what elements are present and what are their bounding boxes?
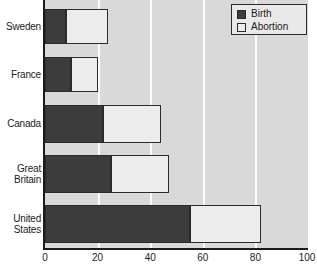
x-tick-label-60: 60 [197, 252, 208, 263]
legend-swatch-birth [237, 10, 246, 19]
x-tick-label-80: 80 [250, 252, 261, 263]
category-label-line: States [0, 224, 41, 235]
category-label-canada: Canada [0, 118, 41, 129]
bar-segment-birth[interactable] [45, 57, 71, 92]
x-tick-label-20: 20 [92, 252, 103, 263]
bar-row[interactable] [45, 155, 308, 193]
bar-row[interactable] [45, 205, 308, 243]
stacked-bar-chart: Sweden France Canada Great Britain Unite… [0, 0, 317, 266]
legend: Birth Abortion [231, 4, 307, 35]
category-label-line: Sweden [0, 21, 41, 32]
bar-row[interactable] [45, 105, 308, 143]
legend-item-birth[interactable]: Birth [237, 8, 306, 20]
legend-label-birth: Birth [251, 9, 272, 19]
bar-segment-abortion[interactable] [111, 155, 169, 193]
category-label-line: Britain [0, 174, 41, 185]
legend-swatch-abortion [237, 23, 246, 32]
category-label-line: Great [0, 163, 41, 174]
category-label-great-britain: Great Britain [0, 163, 41, 185]
bar-segment-abortion[interactable] [190, 205, 261, 243]
category-label-united-states: United States [0, 213, 41, 235]
legend-item-abortion[interactable]: Abortion [237, 21, 306, 33]
x-tick-label-100: 100 [299, 252, 316, 263]
bar-segment-birth[interactable] [45, 205, 190, 243]
bar-segment-birth[interactable] [45, 105, 103, 143]
category-label-france: France [0, 69, 41, 80]
category-label-line: United [0, 213, 41, 224]
bar-row[interactable] [45, 57, 308, 92]
x-tick-label-40: 40 [145, 252, 156, 263]
bar-segment-abortion[interactable] [71, 57, 97, 92]
bar-segment-abortion[interactable] [103, 105, 161, 143]
category-axis-labels: Sweden France Canada Great Britain Unite… [0, 0, 41, 248]
category-label-sweden: Sweden [0, 21, 41, 32]
legend-label-abortion: Abortion [251, 22, 288, 32]
bar-segment-birth[interactable] [45, 9, 66, 44]
bar-segment-abortion[interactable] [66, 9, 108, 44]
x-axis-line [43, 248, 308, 250]
y-axis-line [43, 0, 45, 250]
category-label-line: France [0, 69, 41, 80]
bar-segment-birth[interactable] [45, 155, 111, 193]
x-tick-label-0: 0 [42, 252, 48, 263]
category-label-line: Canada [0, 118, 41, 129]
